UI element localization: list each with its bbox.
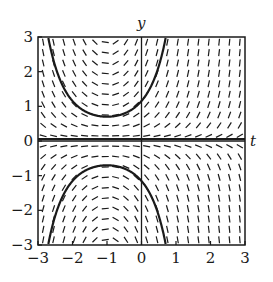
slope-segment: [51, 112, 56, 117]
slope-segment: [154, 135, 161, 136]
slope-segment: [198, 80, 200, 87]
slope-segment: [42, 216, 44, 223]
slope-segment: [112, 104, 119, 106]
slope-segment: [102, 229, 109, 230]
slope-segment: [81, 135, 88, 136]
slope-segment: [112, 156, 119, 157]
slope-segment: [177, 185, 179, 192]
slope-segment: [143, 146, 150, 147]
slope-segment: [239, 80, 240, 87]
slope-segment: [156, 60, 158, 67]
slope-segment: [167, 39, 168, 46]
slope-segment: [195, 135, 202, 138]
slope-segment: [135, 49, 138, 55]
slope-segment: [218, 174, 220, 181]
slope-segment: [83, 60, 87, 66]
slope-segment: [123, 156, 130, 158]
slope-segment: [102, 42, 109, 43]
slope-segment: [186, 112, 189, 118]
slope-segment: [240, 236, 241, 243]
slope-segment: [50, 135, 57, 137]
slope-segment: [208, 39, 209, 46]
slope-segment: [208, 216, 209, 223]
slope-segment: [186, 154, 191, 159]
slope-segment: [197, 101, 199, 108]
slope-segment: [196, 154, 200, 159]
slope-segment: [239, 49, 240, 56]
slope-segment: [73, 237, 75, 244]
slope-segment: [187, 216, 188, 223]
slope-segment: [73, 60, 76, 66]
slope-segment: [208, 80, 209, 87]
slope-segment: [146, 226, 148, 233]
slope-segment: [40, 154, 45, 158]
slope-segment: [72, 81, 76, 87]
slope-segment: [197, 91, 199, 98]
slope-segment: [71, 165, 77, 169]
slope-segment: [52, 174, 56, 180]
slope-segment: [73, 216, 76, 222]
slope-segment: [196, 123, 200, 128]
slope-segment: [187, 101, 190, 107]
slope-segment: [176, 174, 179, 180]
slope-segment: [229, 184, 230, 191]
slope-segment: [92, 61, 97, 65]
slope-segment: [176, 112, 180, 118]
slope-segment: [167, 216, 169, 223]
slope-segment: [228, 164, 230, 171]
slope-segment: [155, 112, 160, 117]
slope-segment: [124, 216, 128, 221]
slope-segment: [155, 174, 159, 180]
slope-segment: [123, 186, 129, 190]
slope-segment: [187, 174, 190, 180]
slope-segment: [102, 73, 109, 74]
slope-segment: [71, 135, 78, 136]
slope-segment: [92, 196, 98, 200]
slope-segment: [177, 226, 178, 233]
slope-segment: [177, 205, 179, 212]
slope-segment: [71, 146, 78, 147]
slope-segment: [113, 217, 119, 220]
slope-segment: [188, 226, 189, 233]
slope-segment: [166, 185, 169, 191]
x-tick-label: −3: [27, 249, 49, 267]
y-tick-label: 1: [23, 97, 33, 115]
slope-segment: [208, 60, 209, 67]
slope-segment: [53, 39, 55, 46]
slope-segment: [208, 91, 210, 98]
slope-segment: [187, 80, 189, 87]
slope-segment: [42, 49, 43, 56]
slope-segment: [122, 146, 129, 147]
slope-segment: [81, 113, 87, 116]
slope-segment: [60, 135, 67, 136]
slope-segment: [81, 124, 88, 126]
slope-segment: [156, 195, 159, 201]
y-tick-label: 3: [23, 28, 33, 46]
slope-segment: [72, 185, 76, 191]
slope-segment: [176, 164, 180, 170]
slope-segment: [185, 145, 192, 147]
slope-segment: [122, 136, 129, 137]
slope-segment: [112, 93, 119, 95]
slope-segment: [43, 236, 44, 243]
slope-segment: [72, 195, 76, 201]
slope-segment: [63, 49, 65, 56]
slope-segment: [133, 135, 140, 136]
slope-segment: [135, 216, 138, 222]
slope-segment: [177, 70, 179, 77]
slope-segment: [239, 112, 241, 119]
slope-segment: [92, 50, 97, 55]
slope-segment: [217, 123, 221, 129]
slope-segment: [92, 207, 98, 211]
slope-segment: [229, 60, 230, 67]
slope-segment: [166, 91, 169, 97]
slope-segment: [112, 197, 118, 200]
slope-segment: [40, 145, 47, 147]
slope-segment: [102, 63, 109, 64]
slope-segment: [166, 102, 169, 108]
slope-segment: [208, 70, 209, 77]
slope-segment: [155, 91, 158, 97]
slope-segment: [218, 112, 221, 118]
slope-segment: [229, 226, 230, 233]
slope-segment: [237, 134, 243, 138]
